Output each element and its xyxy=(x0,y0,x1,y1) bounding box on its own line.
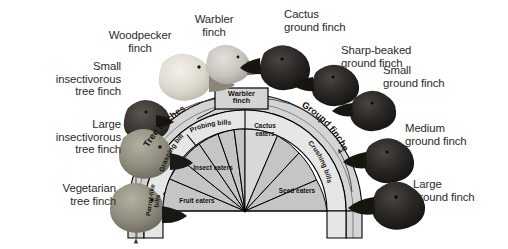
cactus-eaters-label: Cactus eaters xyxy=(247,122,283,138)
label-small-insectivorous-tree-finch: Small insectivorous tree finch xyxy=(6,60,121,98)
fruit-eaters-label: Fruit eaters xyxy=(166,197,228,204)
label-vegetarian-tree-finch: Vegetarian tree finch xyxy=(4,182,116,207)
label-warbler-finch: Warbler finch xyxy=(178,13,250,38)
seed-eaters-label: Seed eaters xyxy=(266,187,328,194)
crushing-bills-foot xyxy=(327,211,346,238)
label-woodpecker-finch: Woodpecker finch xyxy=(88,29,192,54)
label-medium-ground-finch: Medium ground finch xyxy=(405,122,505,147)
label-cactus-ground-finch: Cactus ground finch xyxy=(284,8,380,33)
label-large-insectivorous-tree-finch: Large insectivorous tree finch xyxy=(6,118,121,156)
warbler-finch-box-label: Warbler finch xyxy=(216,90,267,105)
label-small-ground-finch: Small ground finch xyxy=(383,64,479,89)
ground-finches-ring-foot xyxy=(346,211,362,238)
insect-eaters-label: Insect eaters xyxy=(180,164,246,171)
label-large-ground-finch: Large ground finch xyxy=(413,178,507,203)
figure-canvas: Tree finches Ground finches Probing bill… xyxy=(0,0,508,249)
